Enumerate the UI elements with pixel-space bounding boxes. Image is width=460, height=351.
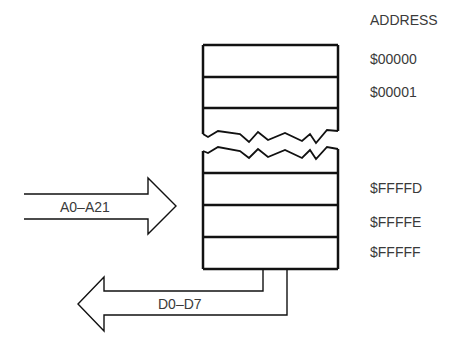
address-label: $FFFFF — [370, 244, 421, 260]
address-label: $FFFFE — [370, 214, 421, 230]
data-bus-label: D0–D7 — [158, 296, 202, 312]
address-label: $00001 — [370, 84, 417, 100]
break-lines — [203, 130, 338, 159]
address-column-header: ADDRESS — [370, 12, 460, 28]
memory-block-lower — [203, 149, 338, 269]
memory-block-upper — [203, 45, 338, 134]
address-label: $00000 — [370, 51, 417, 67]
address-label: $FFFFD — [370, 180, 422, 196]
address-bus-label: A0–A21 — [60, 199, 110, 215]
